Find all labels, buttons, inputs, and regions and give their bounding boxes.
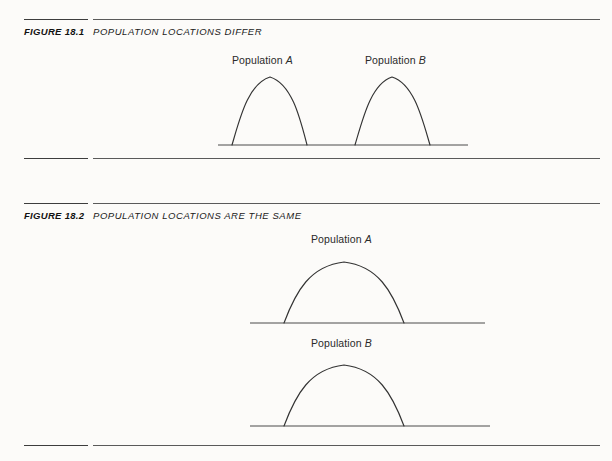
figure-1-bottom-rule-short bbox=[24, 158, 88, 159]
figure-2-bottom-rule-long bbox=[93, 445, 600, 446]
figure-2-curve-a-label-symbol: A bbox=[365, 233, 372, 245]
figure-1-bottom-rule-long bbox=[93, 158, 600, 159]
figure-2-top-rule-long bbox=[93, 203, 600, 204]
figure-2-curve-b-label: Population B bbox=[311, 337, 372, 349]
figure-2-curve-population-a bbox=[284, 262, 404, 323]
figure-2-top-rule-short bbox=[24, 203, 88, 204]
figure-2-curve-b-label-prefix: Population bbox=[311, 337, 365, 349]
figure-1-curve-population-a bbox=[232, 77, 307, 145]
figure-1-svg bbox=[0, 0, 612, 180]
figure-2-title: POPULATION LOCATIONS ARE THE SAME bbox=[93, 210, 302, 221]
figure-2-label: FIGURE 18.2 bbox=[24, 210, 84, 221]
figure-2-bottom-rule-short bbox=[24, 445, 88, 446]
figure-page: FIGURE 18.1 POPULATION LOCATIONS DIFFER … bbox=[0, 0, 612, 461]
figure-1-curve-population-b bbox=[355, 77, 430, 145]
figure-2-curve-b-label-symbol: B bbox=[365, 337, 372, 349]
figure-2-curve-a-label: Population A bbox=[311, 233, 372, 245]
figure-1-plot bbox=[0, 0, 612, 180]
figure-2-curve-population-b bbox=[284, 365, 404, 426]
figure-2-curve-a-label-prefix: Population bbox=[311, 233, 365, 245]
